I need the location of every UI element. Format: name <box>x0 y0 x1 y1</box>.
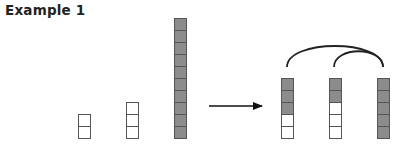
filled-cell <box>175 67 187 79</box>
empty-cell <box>127 127 139 139</box>
filled-cell <box>330 79 342 91</box>
filled-cell <box>175 31 187 43</box>
filled-cell <box>378 115 390 127</box>
filled-cell <box>282 79 294 91</box>
empty-cell <box>282 115 294 127</box>
filled-cell <box>175 79 187 91</box>
after-stack-2 <box>330 79 342 139</box>
filled-cell <box>175 115 187 127</box>
filled-cell <box>378 127 390 139</box>
filled-cell <box>378 79 390 91</box>
filled-cell <box>175 103 187 115</box>
filled-cell <box>330 91 342 103</box>
arc-2 <box>334 51 383 67</box>
empty-cell <box>79 127 91 139</box>
filled-cell <box>175 55 187 67</box>
filled-cell <box>175 43 187 55</box>
before-stacks <box>79 19 187 139</box>
filled-cell <box>175 19 187 31</box>
after-stack-3 <box>378 79 390 139</box>
after-stack-1 <box>282 79 294 139</box>
transfer-arcs <box>287 46 383 67</box>
empty-cell <box>127 115 139 127</box>
before-stack-2 <box>127 103 139 139</box>
before-stack-3 <box>175 19 187 139</box>
empty-cell <box>330 115 342 127</box>
filled-cell <box>175 91 187 103</box>
before-stack-1 <box>79 115 91 139</box>
empty-cell <box>127 103 139 115</box>
filled-cell <box>282 91 294 103</box>
filled-cell <box>378 103 390 115</box>
filled-cell <box>175 127 187 139</box>
empty-cell <box>330 103 342 115</box>
after-stacks <box>282 79 390 139</box>
filled-cell <box>282 103 294 115</box>
empty-cell <box>282 127 294 139</box>
empty-cell <box>330 127 342 139</box>
empty-cell <box>79 115 91 127</box>
filled-cell <box>378 91 390 103</box>
block-stack-diagram <box>0 0 396 145</box>
